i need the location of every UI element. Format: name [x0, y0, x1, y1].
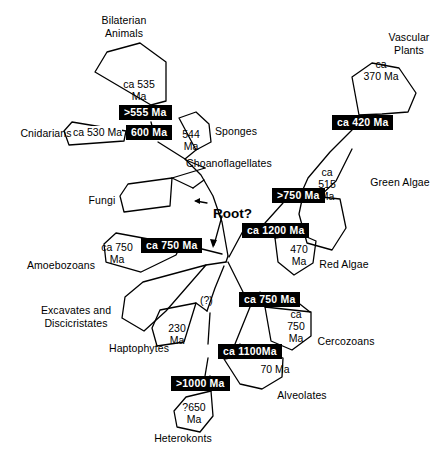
taxon-label-red-algae: Red Algae [315, 258, 373, 271]
root-arrow-down-head [210, 239, 217, 248]
root-arrow-left-head [194, 198, 200, 204]
wedge-age-cnidarians: ca 530 Ma [73, 126, 122, 138]
wedge-age-bilaterian: ca 535 Ma [113, 78, 165, 102]
taxon-label-vascular-plants: Vascular Plants [380, 31, 438, 56]
node-age-420: ca 420 Ma [332, 115, 393, 130]
node-age-1200: ca 1200 Ma [242, 223, 309, 238]
node-age-750-right: >750 Ma [272, 188, 325, 203]
node-age-555: >555 Ma [119, 105, 172, 120]
taxon-label-cercozoans: Cercozoans [313, 335, 379, 348]
node-age-750-left: ca 750 Ma [141, 238, 202, 253]
branch-fungi-stem [172, 178, 193, 188]
taxon-label-sponges: Sponges [212, 125, 260, 138]
node-age-1100: ca 1100Ma [218, 344, 282, 359]
wedge-age-cercozoans: ca 750 Ma [283, 308, 309, 344]
wedge-age-red-algae: 470 Ma [285, 243, 313, 267]
branch-chromalveolate-backbone [208, 313, 210, 344]
taxon-label-heterokonts: Heterokonts [149, 432, 217, 445]
root-question-label: Root? [213, 206, 252, 221]
taxon-label-choanoflagellates: Choanoflagellates [183, 157, 275, 170]
branch-heterokont-stem [205, 358, 208, 376]
phylogenetic-tree-figure: Bilaterian Animals Cnidarians Sponges Ch… [0, 0, 447, 464]
taxon-label-amoebozoans: Amoebozoans [23, 259, 99, 272]
taxon-label-green-algae: Green Algae [365, 176, 435, 189]
branch-opisthokont-link [193, 180, 204, 188]
wedge-age-sponges: 544 Ma [177, 128, 205, 152]
node-age-750-center: ca 750 Ma [239, 292, 300, 307]
wedge-age-haptophytes: 230 Ma [163, 322, 191, 346]
taxon-label-fungi: Fungi [85, 194, 119, 207]
wedge-age-alveolates: 70 Ma [257, 363, 293, 375]
branch-choanoflagellates-line [172, 168, 205, 178]
wedge-age-heterokonts: ?650 Ma [178, 401, 210, 425]
branch-750-to-1100 [235, 307, 250, 344]
wedge-age-vascular-plants: ca 370 Ma [358, 58, 404, 82]
taxon-label-cnidarians: Cnidarians [18, 127, 74, 140]
node-age-1000: >1000 Ma [171, 376, 230, 391]
wedge-age-amoebozoans: ca 750 Ma [95, 241, 139, 265]
branch-excavates-stem [206, 262, 226, 265]
branch-center-to-750 [228, 262, 243, 292]
taxon-label-alveolates: Alveolates [273, 389, 331, 402]
taxon-label-excavates-discicristates: Excavates and Discicristates [34, 304, 118, 329]
node-age-600: 600 Ma [126, 125, 172, 140]
branch-center-to-1200 [229, 231, 243, 257]
uncertain-branch-marker: (?) [200, 294, 213, 306]
branch-center-node [226, 256, 228, 262]
taxon-label-bilaterian-animals: Bilaterian Animals [80, 14, 168, 39]
branch-1200-to-750 [265, 203, 283, 223]
wedge-fungi [120, 178, 172, 212]
